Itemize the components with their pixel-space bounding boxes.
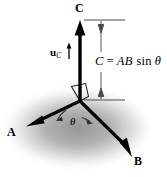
equation-equals: = bbox=[107, 54, 114, 68]
equation-factors: AB bbox=[117, 54, 133, 68]
dimension-arrowhead-top bbox=[98, 25, 103, 34]
unit-vector-label: uC bbox=[50, 47, 61, 60]
equation-lhs: C bbox=[95, 54, 104, 68]
vector-a-label: A bbox=[7, 126, 16, 138]
vector-cross-product-figure: C A B uC θ C=ABsinθ bbox=[0, 0, 167, 177]
equation-angle: θ bbox=[155, 54, 161, 68]
vector-c-label: C bbox=[75, 2, 84, 14]
equation-sin-function: sin bbox=[136, 54, 151, 68]
unit-vector-arrow bbox=[67, 43, 72, 60]
unit-vector-subscript-text: C bbox=[56, 51, 61, 60]
magnitude-equation-label: C=ABsinθ bbox=[95, 55, 161, 68]
plane-shadow bbox=[2, 87, 154, 169]
vector-b-label: B bbox=[134, 155, 142, 167]
diagram-canvas bbox=[0, 0, 167, 177]
angle-theta-label: θ bbox=[70, 116, 75, 127]
